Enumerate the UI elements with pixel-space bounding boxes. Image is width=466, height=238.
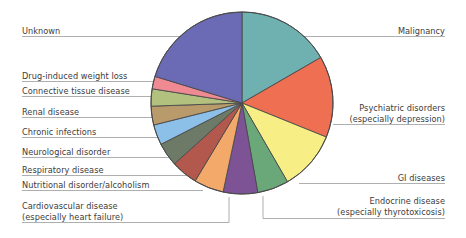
label-neurological-disorder-line-0: Neurological disorder	[22, 147, 110, 158]
label-endocrine-disease: Endocrine disease (especially thyrotoxic…	[337, 196, 445, 217]
label-connective-tissue-disease: Connective tissue disease	[22, 86, 130, 97]
label-gi-diseases-line-0: GI diseases	[398, 173, 445, 184]
label-respiratory-disease-line-0: Respiratory disease	[22, 165, 104, 176]
label-endocrine-disease-line-1: (especially thyrotoxicosis)	[337, 207, 445, 218]
label-cardiovascular-disease-line-1: (especially heart failure)	[22, 212, 123, 223]
label-drug-induced-weight-loss: Drug-induced weight loss	[22, 71, 127, 82]
label-renal-disease: Renal disease	[22, 107, 79, 118]
label-renal-disease-line-0: Renal disease	[22, 107, 79, 118]
label-psychiatric-disorders-line-0: Psychiatric disorders	[349, 103, 445, 114]
pie-chart-figure: Unknown Drug-induced weight loss Connect…	[0, 0, 466, 238]
label-nutritional-disorder-alcoholism-line-0: Nutritional disorder/alcoholism	[22, 180, 149, 191]
label-gi-diseases: GI diseases	[398, 173, 445, 184]
label-psychiatric-disorders-line-1: (especially depression)	[349, 114, 445, 125]
pie-slices	[151, 12, 333, 194]
label-respiratory-disease: Respiratory disease	[22, 165, 104, 176]
label-chronic-infections-line-0: Chronic infections	[22, 127, 96, 138]
label-cardiovascular-disease: Cardiovascular disease (especially heart…	[22, 201, 123, 222]
label-drug-induced-weight-loss-line-0: Drug-induced weight loss	[22, 71, 127, 82]
label-connective-tissue-disease-line-0: Connective tissue disease	[22, 86, 130, 97]
label-psychiatric-disorders: Psychiatric disorders (especially depres…	[349, 103, 445, 124]
label-chronic-infections: Chronic infections	[22, 127, 96, 138]
label-malignancy-line-0: Malignancy	[398, 26, 445, 37]
label-nutritional-disorder-alcoholism: Nutritional disorder/alcoholism	[22, 180, 149, 191]
label-unknown: Unknown	[22, 26, 60, 37]
label-endocrine-disease-line-0: Endocrine disease	[337, 196, 445, 207]
label-malignancy: Malignancy	[398, 26, 445, 37]
label-neurological-disorder: Neurological disorder	[22, 147, 110, 158]
label-cardiovascular-disease-line-0: Cardiovascular disease	[22, 201, 123, 212]
label-unknown-line-0: Unknown	[22, 26, 60, 37]
